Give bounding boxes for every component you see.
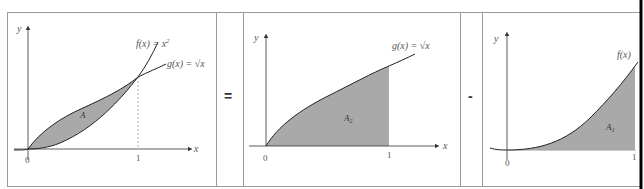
area-equation-diagram: y x 0 1 f(x) = x2 g(x) = √x A = y x 0 1 … bbox=[0, 0, 644, 189]
g-curve-label: g(x) = √x bbox=[167, 58, 205, 70]
panel-1-graph: y x 0 1 f(x) = x2 g(x) = √x A bbox=[14, 23, 205, 165]
x-axis-label: x bbox=[442, 140, 448, 151]
equals-operator: = bbox=[224, 88, 232, 104]
y-axis-label: y bbox=[253, 32, 259, 43]
y-axis-label: y bbox=[493, 33, 499, 44]
x-axis-label: x bbox=[193, 143, 199, 154]
f-curve-label: f(x) bbox=[617, 49, 632, 61]
origin-label: 0 bbox=[505, 158, 510, 168]
origin-label: 0 bbox=[25, 155, 30, 165]
tick-label-1: 1 bbox=[387, 150, 392, 160]
panel-2-graph: y x 0 1 g(x) = √x A2 bbox=[249, 32, 448, 163]
area-label-a: A bbox=[79, 110, 86, 120]
panel-3-graph: y 0 1 f(x) A1 bbox=[490, 33, 638, 168]
tick-label-1: 1 bbox=[136, 153, 141, 163]
minus-operator: - bbox=[468, 88, 473, 104]
f-curve-label: f(x) = x2 bbox=[136, 37, 170, 50]
y-axis-label: y bbox=[16, 23, 22, 34]
shaded-region-a2 bbox=[266, 66, 389, 146]
tick-label-1: 1 bbox=[632, 152, 637, 162]
f-curve-x-squared bbox=[14, 42, 158, 150]
shaded-region-a1 bbox=[507, 66, 635, 150]
g-curve-label: g(x) = √x bbox=[392, 40, 430, 52]
origin-label: 0 bbox=[263, 153, 268, 163]
